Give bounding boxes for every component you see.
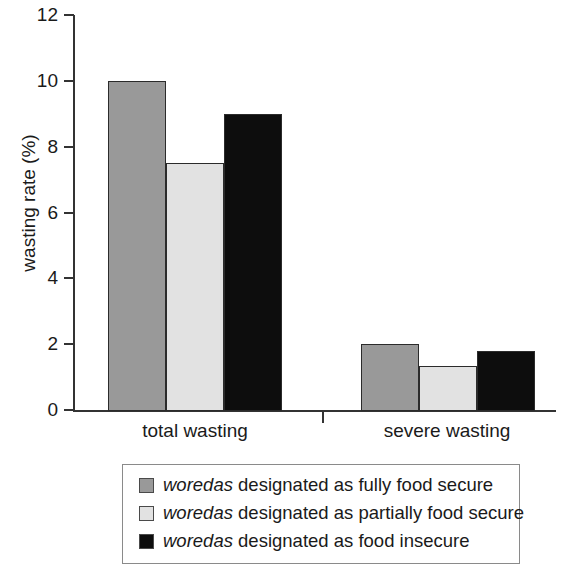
bar bbox=[108, 81, 166, 411]
legend-swatch-icon bbox=[139, 506, 154, 521]
y-axis-tick bbox=[64, 343, 74, 345]
legend-item-label: woredas designated as food insecure bbox=[163, 531, 470, 551]
y-axis-tick bbox=[64, 14, 74, 16]
legend-item-term: woredas bbox=[163, 530, 233, 551]
y-axis-line bbox=[73, 15, 75, 412]
bar bbox=[224, 114, 282, 411]
bar bbox=[166, 163, 224, 411]
y-axis-tick-label: 12 bbox=[14, 5, 58, 24]
bar bbox=[361, 344, 419, 411]
legend-item-label: woredas designated as fully food secure bbox=[163, 475, 493, 495]
y-axis-tick bbox=[64, 80, 74, 82]
legend-item: woredas designated as food insecure bbox=[139, 528, 519, 554]
y-axis-tick bbox=[64, 277, 74, 279]
y-axis-tick bbox=[64, 146, 74, 148]
bar bbox=[419, 366, 477, 411]
legend: woredas designated as fully food securew… bbox=[122, 464, 520, 564]
y-axis-title: wasting rate (%) bbox=[18, 103, 40, 303]
y-axis-tick bbox=[64, 409, 74, 411]
legend-item: woredas designated as fully food secure bbox=[139, 472, 519, 498]
y-axis-tick-label: 10 bbox=[14, 71, 58, 90]
y-axis-tick-label: 0 bbox=[14, 400, 58, 419]
x-axis-tick bbox=[322, 412, 324, 423]
x-axis-category-label: severe wasting bbox=[327, 420, 567, 442]
y-axis-tick-label: 2 bbox=[14, 334, 58, 353]
x-axis-category-label: total wasting bbox=[75, 420, 315, 442]
legend-item-term: woredas bbox=[163, 474, 233, 495]
y-axis-tick bbox=[64, 212, 74, 214]
legend-swatch-icon bbox=[139, 534, 154, 549]
legend-item-term: woredas bbox=[163, 502, 233, 523]
legend-item: woredas designated as partially food sec… bbox=[139, 500, 519, 526]
legend-swatch-icon bbox=[139, 478, 154, 493]
legend-item-label: woredas designated as partially food sec… bbox=[163, 503, 524, 523]
bar bbox=[477, 351, 535, 411]
